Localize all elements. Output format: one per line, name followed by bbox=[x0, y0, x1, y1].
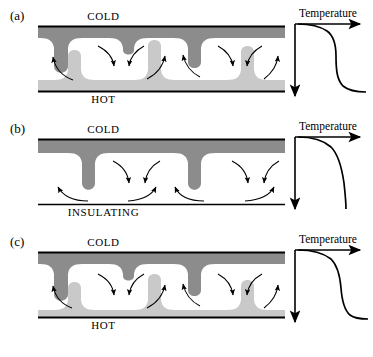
panel-a-cell-svg bbox=[0, 0, 373, 110]
panel-c-cell-svg bbox=[0, 226, 373, 336]
panel-b: (b) COLD INSULATING Temperature Internal… bbox=[0, 113, 373, 223]
panel-c: (c) COLD HOT Temperature Internal heatin… bbox=[0, 226, 373, 336]
panel-b-temperature-axes bbox=[295, 137, 360, 209]
panel-a-temperature-curve bbox=[298, 24, 366, 92]
panel-b-temperature-curve bbox=[298, 137, 346, 209]
figure-caption bbox=[6, 346, 366, 356]
panel-c-temperature-curve bbox=[298, 250, 368, 319]
panel-c-temperature-axes bbox=[295, 250, 360, 322]
panel-a: (a) COLD HOT Temperature bbox=[0, 0, 373, 110]
panel-a-temperature-axes bbox=[295, 24, 360, 96]
panel-b-cell-svg bbox=[0, 113, 373, 223]
figure-mantle-convection: (a) COLD HOT Temperature bbox=[0, 0, 373, 357]
